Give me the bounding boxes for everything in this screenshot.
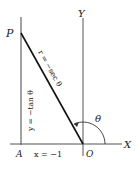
label-x: X <box>123 139 132 150</box>
annotation-x-eq: x = −1 <box>34 150 62 159</box>
label-a: A <box>15 149 23 159</box>
label-o: O <box>86 149 94 159</box>
polar-diagram: P Y X A O θ x = −1 r = −sec θ y = −tan θ <box>0 0 140 171</box>
label-theta: θ <box>95 113 101 124</box>
annotation-y-eq: y = −tan θ <box>26 90 35 132</box>
label-p: P <box>5 27 14 40</box>
theta-arc <box>74 122 105 144</box>
label-y: Y <box>78 8 86 19</box>
